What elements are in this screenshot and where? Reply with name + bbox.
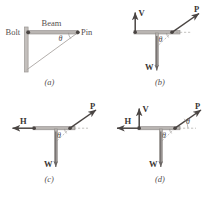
label-bolt: Bolt xyxy=(6,27,21,37)
caption-b: (b) xyxy=(155,77,165,87)
label-theta-b: θ xyxy=(159,35,163,44)
caption-a: (a) xyxy=(45,77,55,87)
caption-d: (d) xyxy=(155,174,165,184)
label-w-b: W xyxy=(145,62,154,72)
pin-node xyxy=(76,30,80,34)
label-pin: Pin xyxy=(81,27,93,37)
label-v-b: V xyxy=(139,8,146,18)
caption-c: (c) xyxy=(45,174,55,184)
bolt-node xyxy=(26,30,30,34)
label-theta-d-upper: θ xyxy=(186,117,190,126)
label-theta-d-lower: θ xyxy=(162,131,166,140)
figure-container: Bolt Beam Pin θ (a) V P W θ (b) xyxy=(0,0,211,198)
label-w-c: W xyxy=(44,159,53,169)
label-theta-a: θ xyxy=(59,34,63,43)
beam-member xyxy=(27,31,78,34)
label-p-d: P xyxy=(195,101,200,111)
label-theta-c: θ xyxy=(57,131,61,140)
figure-background xyxy=(0,0,211,198)
label-v-d: V xyxy=(143,104,150,114)
label-beam: Beam xyxy=(42,18,62,28)
label-p-c: P xyxy=(90,101,95,111)
label-w-d: W xyxy=(149,159,158,169)
label-h-d: H xyxy=(125,116,132,126)
label-h-c: H xyxy=(20,116,27,126)
label-p-b: P xyxy=(194,4,199,14)
